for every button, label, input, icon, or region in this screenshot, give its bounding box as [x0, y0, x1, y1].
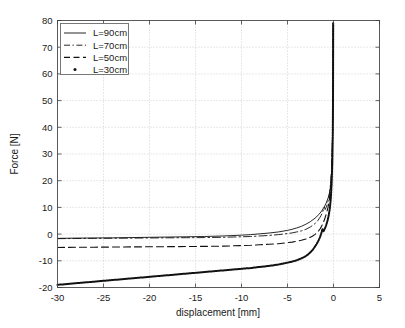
y-tick-label: 60	[42, 68, 53, 79]
y-tick-label: 50	[42, 95, 53, 106]
y-tick-label: 80	[42, 15, 53, 26]
y-tick-label: 10	[42, 202, 53, 213]
legend-label: L=50cm	[93, 52, 127, 63]
y-tick-label: -20	[39, 282, 53, 293]
x-tick-label: -25	[97, 292, 111, 303]
y-tick-label: 30	[42, 148, 53, 159]
legend-label: L=30cm	[93, 64, 127, 75]
x-tick-label: -15	[189, 292, 203, 303]
y-tick-label: 70	[42, 42, 53, 53]
y-axis-title: Force [N]	[9, 133, 20, 174]
x-tick-label: -20	[143, 292, 157, 303]
x-tick-label: 0	[331, 292, 336, 303]
x-tick-label: -5	[283, 292, 291, 303]
y-tick-label: -10	[39, 255, 53, 266]
x-axis-title: displacement [mm]	[176, 307, 260, 318]
x-tick-label: -10	[235, 292, 249, 303]
y-tick-label: 40	[42, 122, 53, 133]
force-displacement-chart: -30-25-20-15-10-505 -20-1001020304050607…	[0, 0, 405, 328]
legend-label: L=90cm	[93, 27, 127, 38]
figure-container: -30-25-20-15-10-505 -20-1001020304050607…	[0, 0, 405, 328]
legend-marker-dot	[74, 68, 77, 71]
y-tick-label: 0	[47, 229, 52, 240]
y-tick-label: 20	[42, 175, 53, 186]
legend-label: L=70cm	[93, 40, 127, 51]
x-tick-label: -30	[51, 292, 65, 303]
legend: L=90cmL=70cmL=50cmL=30cm	[61, 24, 129, 76]
x-tick-label: 5	[377, 292, 382, 303]
